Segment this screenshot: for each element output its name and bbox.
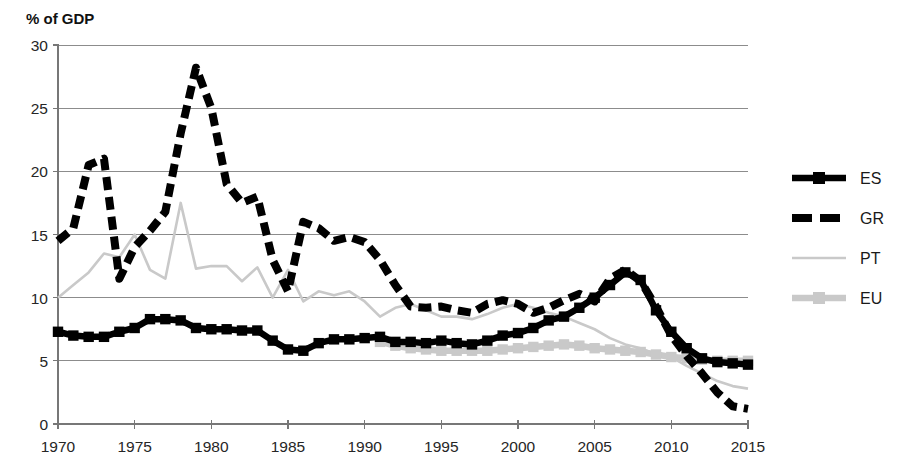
- data-point-marker: [267, 335, 277, 345]
- data-point-marker: [329, 334, 339, 344]
- data-point-marker: [559, 311, 569, 321]
- data-point-marker: [298, 346, 308, 356]
- x-tick-label: 1970: [41, 438, 76, 455]
- y-tick-label: 30: [31, 37, 49, 54]
- legend-label: EU: [860, 290, 882, 307]
- data-point-marker: [436, 346, 446, 356]
- x-tick-label: 2010: [654, 438, 689, 455]
- y-tick-label: 10: [31, 290, 49, 307]
- data-point-marker: [605, 344, 615, 354]
- gdp-line-chart: 0510152025301970197519801985199019952000…: [0, 0, 908, 475]
- x-tick-label: 1990: [347, 438, 382, 455]
- series-layer: [53, 68, 753, 409]
- x-tick-label: 2005: [577, 438, 611, 455]
- x-tick-label: 2000: [501, 438, 536, 455]
- x-tick-label: 2015: [731, 438, 765, 455]
- y-axis-title: % of GDP: [26, 10, 94, 27]
- y-tick-label: 20: [31, 163, 49, 180]
- data-point-marker: [252, 325, 262, 335]
- x-tick-label: 1980: [194, 438, 229, 455]
- data-point-marker: [497, 330, 507, 340]
- data-point-marker: [513, 328, 523, 338]
- data-point-marker: [237, 325, 247, 335]
- data-point-marker: [191, 323, 201, 333]
- data-point-marker: [160, 314, 170, 324]
- data-point-marker: [712, 357, 722, 367]
- data-point-marker: [390, 337, 400, 347]
- data-point-marker: [313, 338, 323, 348]
- data-point-marker: [574, 303, 584, 313]
- data-point-marker: [83, 332, 93, 342]
- data-point-marker: [528, 342, 538, 352]
- data-point-marker: [421, 338, 431, 348]
- data-point-marker: [543, 340, 553, 350]
- axis-layer: [53, 45, 748, 429]
- x-tick-label: 1985: [271, 438, 305, 455]
- data-point-marker: [129, 323, 139, 333]
- data-point-marker: [559, 339, 569, 349]
- y-tick-label: 25: [31, 100, 48, 117]
- x-tick-label: 1975: [117, 438, 151, 455]
- data-point-marker: [221, 324, 231, 334]
- chart-container: 0510152025301970197519801985199019952000…: [0, 0, 908, 475]
- data-point-marker: [375, 332, 385, 342]
- legend-item-gr[interactable]: GR: [792, 210, 884, 227]
- legend-label: ES: [860, 170, 881, 187]
- legend-item-pt[interactable]: PT: [792, 250, 881, 267]
- legend-item-eu[interactable]: EU: [792, 290, 882, 307]
- data-point-marker: [497, 344, 507, 354]
- legend-swatch-marker: [813, 172, 825, 184]
- data-point-marker: [666, 352, 676, 362]
- legend-swatch-marker: [813, 292, 825, 304]
- data-point-marker: [436, 335, 446, 345]
- data-point-marker: [482, 335, 492, 345]
- data-point-marker: [359, 333, 369, 343]
- y-tick-label: 5: [39, 353, 48, 370]
- data-point-marker: [99, 332, 109, 342]
- data-point-marker: [405, 337, 415, 347]
- data-point-marker: [513, 343, 523, 353]
- data-point-marker: [206, 324, 216, 334]
- data-point-marker: [543, 315, 553, 325]
- data-point-marker: [53, 327, 63, 337]
- data-point-marker: [145, 314, 155, 324]
- legend-layer: ESGRPTEU: [792, 170, 884, 307]
- grid-layer: [58, 45, 748, 361]
- y-tick-label: 15: [31, 227, 48, 244]
- series-gr: [58, 68, 748, 409]
- legend-label: GR: [860, 210, 884, 227]
- data-point-marker: [467, 339, 477, 349]
- data-point-marker: [651, 349, 661, 359]
- series-line-gr: [58, 68, 748, 409]
- data-point-marker: [175, 315, 185, 325]
- data-point-marker: [574, 340, 584, 350]
- data-point-marker: [482, 346, 492, 356]
- data-point-marker: [635, 347, 645, 357]
- data-point-marker: [727, 358, 737, 368]
- data-point-marker: [68, 330, 78, 340]
- y-tick-label: 0: [39, 416, 48, 433]
- data-point-marker: [620, 346, 630, 356]
- legend-label: PT: [860, 250, 881, 267]
- data-point-marker: [743, 359, 753, 369]
- data-point-marker: [528, 323, 538, 333]
- data-point-marker: [283, 344, 293, 354]
- data-point-marker: [114, 327, 124, 337]
- legend-item-es[interactable]: ES: [792, 170, 881, 187]
- data-point-marker: [697, 353, 707, 363]
- data-point-marker: [451, 338, 461, 348]
- data-point-marker: [589, 343, 599, 353]
- x-tick-label: 1995: [424, 438, 458, 455]
- data-point-marker: [344, 334, 354, 344]
